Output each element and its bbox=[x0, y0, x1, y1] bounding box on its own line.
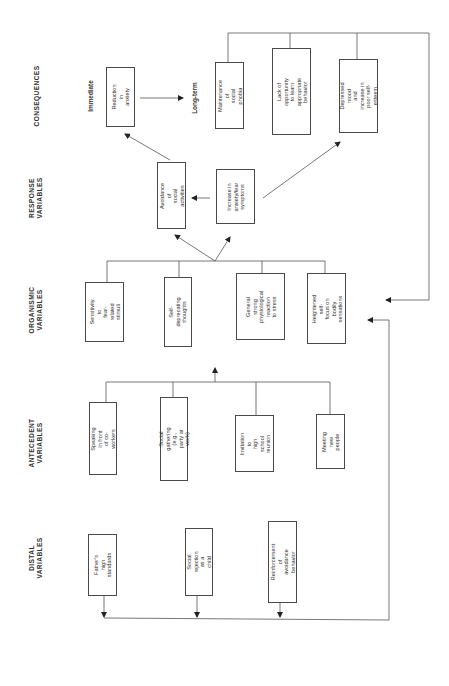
box-social-gathering: Social gathering (e.g., party at work) bbox=[160, 397, 188, 481]
box-social-rejection-as-a-child: Social rejection as a child bbox=[185, 528, 213, 596]
box-heightened-self-focus: Heightened self- focus on bodily sensati… bbox=[307, 273, 346, 344]
header-antecedent-variables: ANTECEDENT VARIABLES bbox=[28, 418, 44, 467]
box-invitation-to-high-school-reunion: Invitation to high school reunion bbox=[235, 415, 274, 472]
box-increase-in-anxiety-fear-symptoms: Increase in anxiety/fear symptoms bbox=[216, 169, 255, 224]
box-speaking-in-front-of-coworkers: Speaking in front of co-workers bbox=[89, 402, 117, 475]
box-meeting-new-people: Meeting new people bbox=[316, 414, 345, 469]
box-maintenance-of-social-phobia: Maintenance of social phobia bbox=[215, 62, 244, 129]
box-fathers-high-standards: Father's high standards bbox=[88, 534, 117, 596]
header-distal-variables: DISTAL VARIABLES bbox=[28, 537, 44, 578]
longterm-label: Long-term bbox=[191, 82, 198, 114]
box-general-strong-physiological-reaction: General strong physiological reaction to… bbox=[236, 273, 285, 340]
box-depressed-mood: Depressed mood and increase in poor self… bbox=[339, 59, 378, 133]
header-response-variables: RESPONSE VARIABLES bbox=[28, 177, 44, 218]
header-organismic-variables: ORGANISMIC VARIABLES bbox=[28, 287, 44, 334]
box-lack-of-opportunity: Lack of opportunity to learn appropriate… bbox=[272, 48, 311, 135]
box-self-deprecating-thoughts: Self-deprecating thoughts bbox=[164, 277, 192, 347]
immediate-label: Immediate bbox=[87, 80, 94, 112]
header-consequences: CONSEQUENCES bbox=[33, 66, 41, 127]
box-sensitivity-to-fear-related-stimuli: Sensitivity to fear-related stimuli bbox=[85, 282, 124, 342]
box-reduction-in-anxiety: Reduction in anxiety bbox=[106, 67, 135, 127]
box-avoidance-of-social-activities: Avoidance of social activities bbox=[157, 162, 186, 229]
box-reinforcement-of-avoidance-behavior: Reinforcement of avoidance behavior bbox=[268, 521, 297, 603]
